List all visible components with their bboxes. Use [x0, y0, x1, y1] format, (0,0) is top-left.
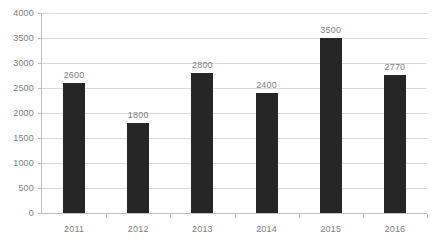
bar-2015[interactable]: [320, 38, 342, 213]
x-tick-label-2014: 2014: [237, 224, 297, 235]
x-tick-label-2012: 2012: [108, 224, 168, 235]
y-tick-label: 4000: [0, 8, 34, 18]
x-tick-label-2016: 2016: [365, 224, 425, 235]
y-tick-label: 2500: [0, 83, 34, 93]
bar-value-label-2015: 3500: [301, 25, 361, 36]
gridline: [42, 138, 427, 139]
bar-value-label-2011: 2600: [44, 70, 104, 81]
y-tick-label: 1500: [0, 133, 34, 143]
bar-value-label-2012: 1800: [108, 110, 168, 121]
y-tick-label: 3000: [0, 58, 34, 68]
bar-2012[interactable]: [127, 123, 149, 213]
bar-chart: 4000 3500 3000 2500 2000 1500 1000 500 0: [0, 0, 437, 250]
x-tick-mark: [363, 214, 364, 218]
gridline: [42, 113, 427, 114]
x-tick-mark: [235, 214, 236, 218]
gridline: [42, 188, 427, 189]
y-tick-label: 0: [0, 208, 34, 218]
gridline: [42, 13, 427, 14]
y-tick-label: 500: [0, 183, 34, 193]
y-tick-label: 2000: [0, 108, 34, 118]
x-tick-label-2015: 2015: [301, 224, 361, 235]
y-tick-label: 1000: [0, 158, 34, 168]
y-axis-line: [41, 13, 42, 214]
bar-2014[interactable]: [256, 93, 278, 213]
x-tick-mark: [170, 214, 171, 218]
bar-value-label-2016: 2770: [365, 62, 425, 73]
x-tick-label-2011: 2011: [44, 224, 104, 235]
bar-2011[interactable]: [63, 83, 85, 213]
x-tick-mark: [106, 214, 107, 218]
gridline: [42, 88, 427, 89]
y-tick-label: 3500: [0, 33, 34, 43]
bar-2013[interactable]: [191, 73, 213, 213]
gridline: [42, 38, 427, 39]
gridline: [42, 163, 427, 164]
bar-2016[interactable]: [384, 75, 406, 214]
x-tick-mark: [299, 214, 300, 218]
plot-area: [42, 13, 427, 213]
x-tick-label-2013: 2013: [172, 224, 232, 235]
x-tick-mark: [427, 214, 428, 218]
bar-value-label-2013: 2800: [172, 60, 232, 71]
bar-value-label-2014: 2400: [237, 80, 297, 91]
